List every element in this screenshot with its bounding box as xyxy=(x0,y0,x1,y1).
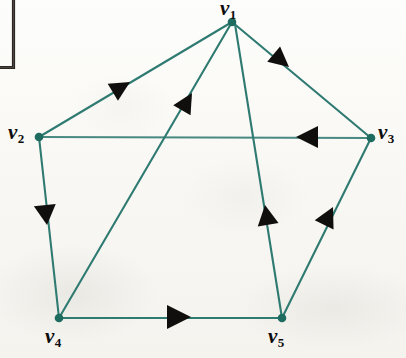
arrowhead-v4-to-v1 xyxy=(173,88,200,115)
vertex-label-v4: v4 xyxy=(45,326,61,349)
edge-v5-to-v1 xyxy=(235,24,282,318)
vertex-layer xyxy=(35,18,376,323)
vertex-label-v3-letter: v xyxy=(378,120,387,144)
arrowhead-v2-to-v4 xyxy=(34,204,58,226)
edge-v5-to-v3 xyxy=(282,138,371,318)
vertex-label-v1-subscript: 1 xyxy=(230,7,237,22)
arrowhead-v3-to-v2 xyxy=(296,126,318,148)
vertex-label-v1: v1 xyxy=(220,0,236,21)
vertex-label-v5-subscript: 5 xyxy=(278,335,285,350)
arrowhead-v5-to-v1 xyxy=(255,203,279,226)
edge-layer xyxy=(39,22,371,318)
arrowhead-v2-to-v1 xyxy=(108,73,135,100)
vertex-dot-v5[interactable] xyxy=(278,314,287,323)
vertex-label-v4-subscript: 4 xyxy=(55,335,62,350)
vertex-label-v3: v3 xyxy=(378,122,394,145)
vertex-label-v2-letter: v xyxy=(8,120,17,144)
vertex-label-v1-letter: v xyxy=(220,0,229,20)
edge-v4-to-v1 xyxy=(59,22,232,318)
figure-canvas: v1 v2 v3 v4 v5 xyxy=(0,0,406,358)
corner-bracket-mark xyxy=(0,0,14,68)
vertex-dot-v3[interactable] xyxy=(367,134,376,143)
vertex-label-v2: v2 xyxy=(8,122,24,145)
vertex-label-v5: v5 xyxy=(268,326,284,349)
vertex-label-v5-letter: v xyxy=(268,324,277,348)
arrowhead-layer xyxy=(34,46,343,329)
vertex-dot-v2[interactable] xyxy=(35,133,44,142)
vertex-dot-v4[interactable] xyxy=(55,314,64,323)
vertex-label-v3-subscript: 3 xyxy=(388,131,395,146)
edge-v2-to-v1 xyxy=(39,22,232,137)
edge-v1-to-v3 xyxy=(232,22,371,138)
vertex-label-v2-subscript: 2 xyxy=(18,131,25,146)
directed-graph xyxy=(0,0,406,358)
arrowhead-v4-to-v5 xyxy=(167,305,191,329)
edge-v3-to-v2 xyxy=(39,137,371,138)
vertex-label-v4-letter: v xyxy=(45,324,54,348)
edge-v2-to-v4 xyxy=(39,137,59,318)
